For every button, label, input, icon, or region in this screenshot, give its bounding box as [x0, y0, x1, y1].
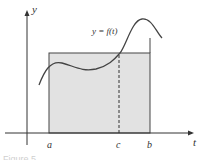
y-axis-label: y	[31, 3, 37, 15]
point-b-label: b	[147, 139, 152, 150]
mvt-diagram: y t y = f(t) a c b Figure 5	[0, 0, 206, 160]
curve-label: y = f(t)	[91, 26, 118, 36]
x-axis-label: t	[193, 136, 197, 148]
x-axis-arrow-icon	[188, 131, 194, 136]
y-axis-arrow-icon	[25, 10, 30, 16]
figure-caption: Figure 5	[3, 154, 36, 160]
point-a-label: a	[47, 139, 52, 150]
point-c-label: c	[116, 139, 121, 150]
shaded-rectangle	[49, 53, 150, 133]
